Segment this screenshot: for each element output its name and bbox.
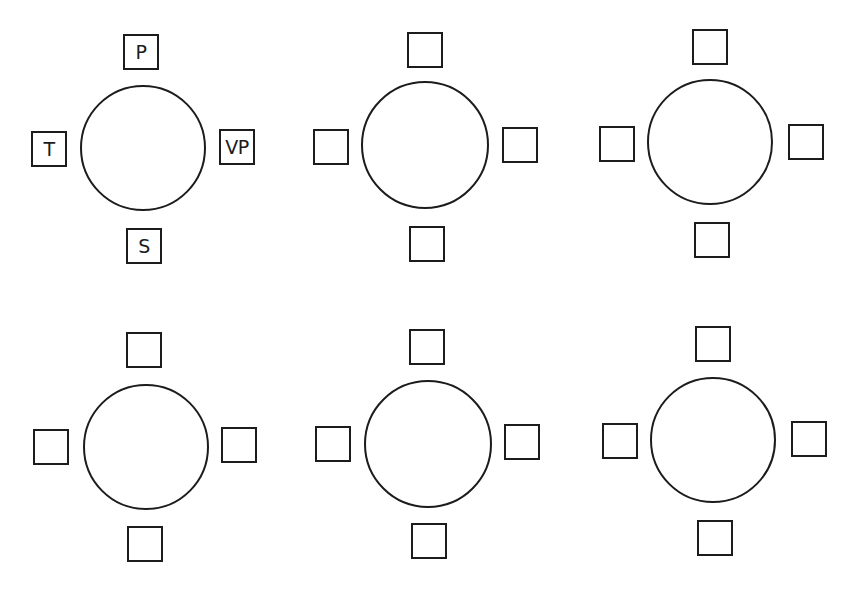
seat-top — [407, 32, 443, 68]
round-table — [83, 384, 209, 510]
round-table — [647, 79, 773, 205]
seat-right — [502, 127, 538, 163]
seat-right — [221, 427, 257, 463]
seat-bottom — [127, 526, 163, 562]
seat-left — [33, 429, 69, 465]
seat-left — [313, 129, 349, 165]
seat-left — [602, 423, 638, 459]
seat-bottom — [411, 523, 447, 559]
seat-left — [315, 426, 351, 462]
seat-top — [126, 332, 162, 368]
seat-left — [599, 126, 635, 162]
seat-top: P — [123, 34, 159, 70]
seat-left: T — [31, 131, 67, 167]
round-table — [80, 85, 206, 211]
seat-bottom: S — [126, 228, 162, 264]
seat-bottom — [694, 222, 730, 258]
seating-diagram-canvas: P T VP S — [0, 0, 863, 599]
round-table — [650, 377, 776, 503]
round-table — [361, 81, 489, 209]
seat-top — [695, 326, 731, 362]
seat-right — [504, 424, 540, 460]
seat-bottom — [409, 226, 445, 262]
seat-right: VP — [219, 129, 255, 165]
seat-label-t: T — [43, 140, 54, 159]
seat-label-vp: VP — [225, 138, 248, 157]
seat-bottom — [697, 520, 733, 556]
seat-top — [409, 329, 445, 365]
seat-label-s: S — [138, 237, 150, 256]
round-table — [364, 380, 492, 508]
seat-label-p: P — [136, 43, 147, 62]
seat-top — [692, 29, 728, 65]
seat-right — [791, 421, 827, 457]
seat-right — [788, 124, 824, 160]
